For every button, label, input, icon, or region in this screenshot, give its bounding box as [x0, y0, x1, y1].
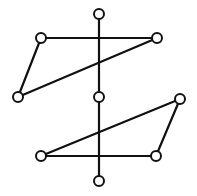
node-bottom [94, 176, 104, 186]
edge-left-upper-right [18, 38, 157, 97]
node-top [94, 9, 104, 19]
node-right [175, 94, 185, 104]
node-left [13, 92, 23, 102]
node-lower-left [36, 151, 46, 161]
node-center [94, 92, 104, 102]
node-lower-right [151, 151, 161, 161]
node-upper-left [36, 33, 46, 43]
node-upper-right [152, 33, 162, 43]
graph-diagram [0, 0, 197, 196]
